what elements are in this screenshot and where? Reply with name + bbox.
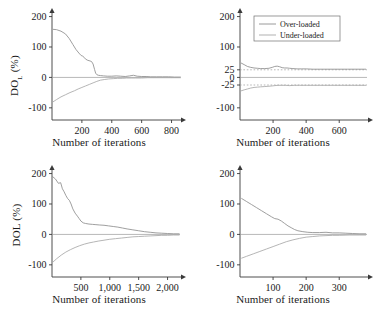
y-tick-label: 200 [32, 11, 47, 22]
figure-grid: 2001000-100200400600800 DOL (%) Number o… [0, 0, 375, 314]
y-tick-label: -100 [28, 102, 46, 113]
y-tick-label: 0 [42, 229, 47, 240]
y-tick-label: -25 [221, 79, 234, 90]
x-axis-label-top-left: Number of iterations [10, 136, 188, 148]
x-tick-label: 1,500 [127, 282, 150, 293]
y-tick-label: 100 [220, 198, 235, 209]
panel-top-right: 200100250-25-100200400600Over-loadedUnde… [188, 0, 375, 157]
x-tick-label: 800 [164, 125, 179, 136]
y-tick-label: 0 [42, 72, 47, 83]
y-tick-label: -100 [216, 102, 234, 113]
legend-label-0: Over-loaded [280, 20, 320, 29]
plot-bottom-left: 2001000-1005001,0001,5002,000 [0, 157, 188, 314]
y-tick-label: 100 [32, 198, 47, 209]
y-axis-label-subscript: L [16, 75, 24, 79]
plot-top-left: 2001000-100200400600800 [0, 0, 188, 157]
x-axis-label-top-right: Number of iterations [194, 136, 372, 148]
y-axis-label-top-left: DOL (%) [8, 46, 23, 106]
y-tick-label: 200 [32, 168, 47, 179]
panel-top-left: 2001000-100200400600800 DOL (%) Number o… [0, 0, 188, 157]
legend-label-1: Under-loaded [280, 31, 324, 40]
x-tick-label: 2,000 [156, 282, 179, 293]
y-tick-label: 0 [230, 229, 235, 240]
series-line-under-loaded [241, 85, 365, 90]
x-axis-label-bottom-right: Number of iterations [194, 293, 372, 305]
panel-bottom-right: 2001000-100100200300 Number of iteration… [188, 157, 375, 314]
x-tick-label: 500 [73, 282, 88, 293]
series-line-over-loaded [241, 63, 365, 69]
y-axis-label-bottom-left: DOL (%) [10, 195, 22, 255]
y-axis-label-base: DO [8, 80, 20, 96]
x-tick-label: 400 [299, 125, 314, 136]
x-tick-label: 300 [332, 282, 347, 293]
panel-bottom-left: 2001000-1005001,0001,5002,000 DOL (%) Nu… [0, 157, 188, 314]
x-tick-label: 100 [266, 282, 281, 293]
y-axis-label-unit: (%) [8, 55, 20, 72]
series-line-under-loaded [53, 78, 180, 102]
x-tick-label: 200 [299, 282, 314, 293]
x-axis-label-bottom-left: Number of iterations [10, 293, 188, 305]
plot-top-right: 200100250-25-100200400600Over-loadedUnde… [188, 0, 375, 157]
series-line-over-loaded [53, 29, 180, 77]
y-tick-label: -100 [216, 259, 234, 270]
y-tick-label: 100 [220, 41, 235, 52]
y-tick-label: 100 [32, 41, 47, 52]
x-tick-label: 600 [134, 125, 149, 136]
plot-bottom-right: 2001000-100100200300 [188, 157, 375, 314]
y-tick-label: -100 [28, 259, 46, 270]
x-tick-label: 200 [74, 125, 89, 136]
series-line-under-loaded [242, 235, 366, 258]
y-tick-label: 200 [220, 11, 235, 22]
y-tick-label: 200 [220, 168, 235, 179]
x-tick-label: 1,000 [99, 282, 122, 293]
series-line-under-loaded [53, 235, 180, 262]
series-line-over-loaded [53, 177, 180, 234]
series-line-over-loaded [242, 199, 366, 234]
x-tick-label: 400 [104, 125, 119, 136]
x-tick-label: 600 [332, 125, 347, 136]
x-tick-label: 200 [266, 125, 281, 136]
